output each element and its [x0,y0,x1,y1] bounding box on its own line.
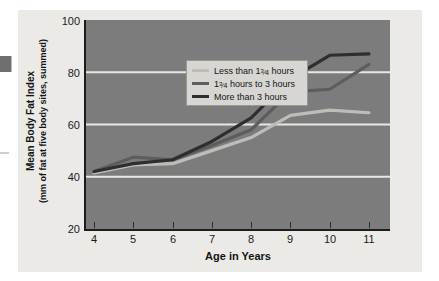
x-tick-label-6: 6 [162,233,184,245]
x-tick-mark-5 [133,222,134,228]
legend-swatch-dark [192,95,209,98]
x-tick-mark-11 [369,222,370,228]
y-tick-label-60: 60 [48,119,80,131]
y-axis-title-line2: (mm of fat at five body sites, summed) [37,21,50,221]
series-lines [86,20,390,229]
y-tick-label-40: 40 [48,171,80,183]
x-tick-label-5: 5 [122,233,144,245]
x-tick-label-8: 8 [240,233,262,245]
page-edge-rule [0,152,9,154]
y-tick-label-20: 20 [48,223,80,235]
x-tick-label-11: 11 [358,233,380,245]
legend-label-1-3-4-hours-to-3-hours: 13⁄4 hours to 3 hours [214,79,295,89]
x-tick-mark-4 [94,222,95,228]
plot-area: Less than 13⁄4 hours 13⁄4 hours to 3 hou… [86,20,390,229]
y-axis-title-line1: Mean Body Fat Index [24,21,37,221]
x-tick-mark-8 [251,222,252,228]
legend-label-more-than-3-hours: More than 3 hours [214,92,287,102]
y-tick-label-100: 100 [48,15,80,27]
y-axis-title: Mean Body Fat Index (mm of fat at five b… [24,21,50,221]
legend-swatch-medium [192,82,209,85]
x-tick-mark-7 [212,222,213,228]
legend-item-more-than-3-hours[interactable]: More than 3 hours [187,90,307,103]
page-edge-tab [0,56,12,72]
legend: Less than 13⁄4 hours 13⁄4 hours to 3 hou… [186,60,308,106]
x-tick-label-10: 10 [319,233,341,245]
x-tick-mark-6 [173,222,174,228]
x-tick-label-7: 7 [201,233,223,245]
x-tick-label-4: 4 [83,233,105,245]
x-axis-title: Age in Years [86,250,390,262]
legend-label-less-than-1-3-4-hours: Less than 13⁄4 hours [214,66,294,76]
legend-item-1-3-4-hours-to-3-hours[interactable]: 13⁄4 hours to 3 hours [187,77,307,90]
y-tick-label-80: 80 [48,67,80,79]
legend-item-less-than-1-3-4-hours[interactable]: Less than 13⁄4 hours [187,64,307,77]
x-tick-label-9: 9 [279,233,301,245]
legend-swatch-light [192,69,209,72]
figure-container: 100 80 60 40 20 Less than 13⁄4 hours 13⁄… [0,0,439,281]
fraction-three-quarters-1: 3⁄4 [261,68,269,76]
x-axis-line [84,229,390,231]
x-tick-mark-9 [290,222,291,228]
x-tick-mark-10 [330,222,331,228]
